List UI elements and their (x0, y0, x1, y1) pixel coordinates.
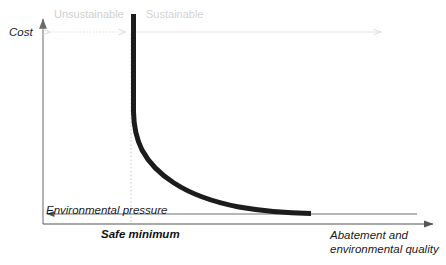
y-axis-label: Cost (9, 25, 33, 39)
region-label-sustainable: Sustainable (146, 8, 204, 22)
diagram-canvas: Cost Unsustainable Sustainable Environme… (0, 0, 446, 265)
x-axis-label-line-1: Abatement and (330, 228, 439, 242)
environmental-pressure-axis-label: Environmental pressure (46, 203, 167, 217)
diagram-vector-layer (0, 0, 446, 265)
x-axis-label-line-2: environmental quality (330, 242, 439, 256)
cost-curve (134, 14, 312, 214)
x-axis-label: Abatement and environmental quality (330, 228, 439, 257)
safe-minimum-label: Safe minimum (101, 227, 180, 241)
region-label-unsustainable: Unsustainable (54, 8, 124, 22)
